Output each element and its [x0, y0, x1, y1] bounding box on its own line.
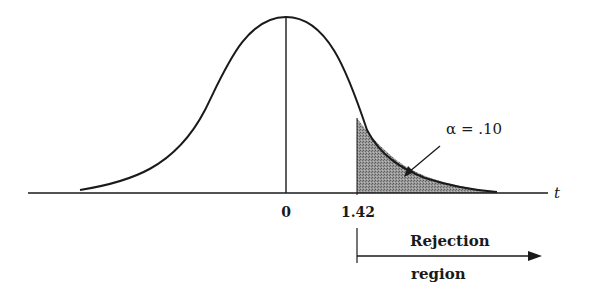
density-curve — [80, 17, 497, 192]
axis-variable-label: t — [554, 184, 561, 202]
alpha-label: α = .10 — [446, 120, 502, 138]
tick-label-critical: 1.42 — [341, 204, 375, 220]
rejection-region-arrow-head — [528, 251, 542, 261]
t-distribution-chart: α = .10 t 0 1.42 Rejection region — [0, 0, 591, 299]
tick-label-zero: 0 — [281, 204, 291, 220]
alpha-arrow-line — [409, 146, 440, 172]
rejection-label-line2: region — [411, 265, 466, 283]
rejection-label-line1: Rejection — [410, 232, 490, 250]
